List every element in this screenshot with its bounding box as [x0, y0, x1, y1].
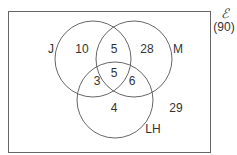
- set-label-m: M: [173, 43, 183, 55]
- universal-set-rectangle: [9, 12, 211, 153]
- region-m-only: 28: [140, 43, 153, 55]
- region-j-only: 10: [75, 43, 88, 55]
- set-label-j: J: [48, 43, 54, 55]
- region-lh-only: 4: [111, 102, 118, 114]
- region-m-lh-only: 6: [129, 75, 136, 87]
- universal-set-total: (90): [213, 21, 234, 33]
- region-j-m-only: 5: [111, 43, 118, 55]
- set-label-lh: LH: [145, 123, 160, 135]
- venn-diagram: [0, 0, 237, 155]
- region-j-lh-only: 3: [94, 75, 101, 87]
- region-outside: 29: [169, 102, 182, 114]
- region-all-three: 5: [111, 67, 118, 79]
- universal-set-symbol: ℰ: [221, 6, 229, 21]
